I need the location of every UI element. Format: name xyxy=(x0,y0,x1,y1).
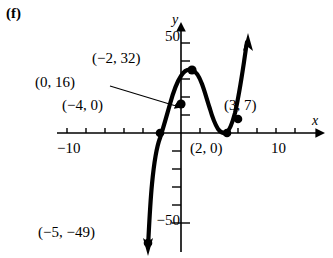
x-axis-label: x xyxy=(312,113,318,129)
x-tick-label-neg10: −10 xyxy=(57,140,80,157)
point-marker-2-0 xyxy=(223,129,232,138)
annotation-point-neg2-32: (−2, 32) xyxy=(92,50,140,67)
y-tick-label-50: 50 xyxy=(154,28,180,45)
point-marker-neg4-0 xyxy=(156,129,165,138)
point-marker-neg5-neg49 xyxy=(144,239,153,248)
leader-line-0-16 xyxy=(110,86,176,106)
annotation-point-3-7: (3, 7) xyxy=(224,97,257,114)
point-marker-3-7 xyxy=(234,115,243,124)
annotation-point-neg5-neg49: (−5, −49) xyxy=(38,224,95,241)
x-tick-label-10: 10 xyxy=(271,140,286,157)
y-axis-label: y xyxy=(172,12,178,28)
point-marker-0-16 xyxy=(176,99,185,108)
annotation-point-neg4-0: (−4, 0) xyxy=(62,97,103,114)
point-marker-neg2-32 xyxy=(187,65,196,74)
figure-container: (f) xyxy=(0,0,333,258)
annotation-point-2-0: (2, 0) xyxy=(190,140,223,157)
annotation-point-0-16: (0, 16) xyxy=(35,74,75,91)
y-tick-label-neg50: −50 xyxy=(148,212,180,229)
